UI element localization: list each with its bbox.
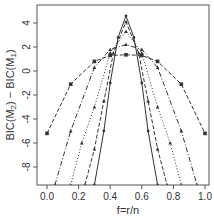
triangle-marker-icon bbox=[112, 51, 116, 55]
triangle-marker-icon bbox=[69, 129, 73, 133]
square-marker-icon bbox=[45, 132, 49, 136]
triangle-marker-icon bbox=[137, 51, 141, 55]
chart: 0.00.20.40.60.81.0420-2-4-6-8 f=r/n BIC(… bbox=[0, 0, 214, 218]
series-line bbox=[85, 22, 167, 185]
triangle-marker-icon bbox=[156, 105, 160, 109]
y-tick-label: -4 bbox=[21, 114, 32, 123]
triangle-marker-icon bbox=[140, 47, 144, 51]
triangle-marker-icon bbox=[168, 141, 172, 145]
x-tick-label: 1.0 bbox=[198, 191, 212, 202]
triangle-marker-icon bbox=[108, 47, 112, 51]
triangle-marker-icon bbox=[102, 99, 106, 103]
y-tick-label: -6 bbox=[21, 138, 32, 147]
square-marker-icon bbox=[156, 60, 160, 64]
square-marker-icon bbox=[124, 53, 128, 57]
triangle-marker-icon bbox=[180, 129, 184, 133]
y-tick-label: 0 bbox=[21, 68, 32, 74]
triangle-marker-icon bbox=[108, 51, 112, 55]
x-tick-label: 0.8 bbox=[166, 191, 180, 202]
square-marker-icon bbox=[93, 60, 97, 64]
y-tick-label: 2 bbox=[21, 44, 32, 50]
x-tick-label: 0.2 bbox=[72, 191, 86, 202]
point-marker-icon bbox=[140, 82, 143, 85]
x-axis-label: f=r/n bbox=[117, 204, 139, 216]
triangle-marker-icon bbox=[93, 65, 97, 69]
triangle-marker-icon bbox=[93, 147, 97, 151]
y-axis-label: BIC(M2) − BIC(M1) bbox=[4, 49, 18, 140]
axes: 0.00.20.40.60.81.0420-2-4-6-8 bbox=[21, 5, 212, 202]
plot-area bbox=[45, 14, 207, 186]
triangle-marker-icon bbox=[80, 141, 84, 145]
point-marker-icon bbox=[147, 130, 150, 133]
x-tick-label: 0.4 bbox=[103, 191, 117, 202]
point-marker-icon bbox=[125, 14, 128, 17]
point-marker-icon bbox=[117, 36, 120, 39]
point-marker-icon bbox=[102, 130, 105, 133]
y-tick-label: -8 bbox=[21, 162, 32, 171]
triangle-marker-icon bbox=[124, 29, 128, 33]
point-marker-icon bbox=[133, 36, 136, 39]
series-line bbox=[47, 55, 205, 134]
triangle-marker-icon bbox=[93, 105, 97, 109]
x-tick-label: 0.6 bbox=[135, 191, 149, 202]
point-marker-icon bbox=[109, 82, 112, 85]
square-marker-icon bbox=[180, 82, 184, 86]
plot-frame bbox=[37, 5, 209, 185]
x-tick-label: 0.0 bbox=[40, 191, 54, 202]
triangle-marker-icon bbox=[156, 147, 160, 151]
square-marker-icon bbox=[203, 132, 207, 136]
triangle-marker-icon bbox=[124, 43, 128, 47]
triangle-marker-icon bbox=[146, 99, 150, 103]
square-marker-icon bbox=[69, 82, 73, 86]
y-tick-label: -2 bbox=[21, 90, 32, 99]
y-tick-label: 4 bbox=[21, 20, 32, 26]
